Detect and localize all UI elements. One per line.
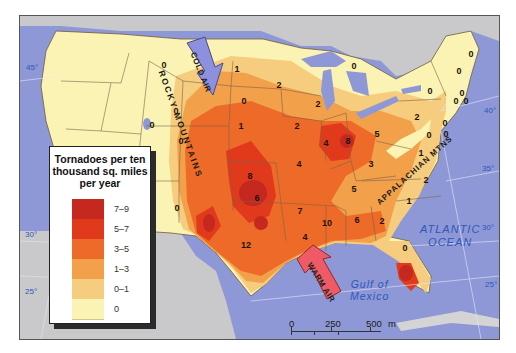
legend-title: Tornadoes per ten thousand sq. miles per… (50, 153, 150, 189)
scale-tick-250km (314, 331, 315, 335)
atlantic-line-1: ATLANTIC (420, 223, 480, 236)
legend-label: 0–1 (114, 284, 129, 294)
scale-tick-0 (291, 327, 292, 335)
tornado-value-label: 0 (161, 61, 166, 70)
lat-label-30-west: 30° (25, 231, 37, 239)
scale-km-0: 0 (289, 339, 294, 340)
scale-km-unit: km (355, 339, 368, 340)
scale-miles-unit: m (388, 318, 396, 329)
cuba-land (396, 311, 499, 331)
tornado-value-label: 0 (443, 130, 448, 139)
tornado-value-label: 1 (406, 197, 411, 206)
scale-km-500: 500 (332, 339, 348, 340)
tornado-value-label: 5 (374, 130, 379, 139)
tornado-value-label: 4 (323, 139, 328, 148)
lat-label-30-east: 30° (482, 224, 494, 232)
band-7-9-texas (203, 214, 215, 232)
legend-label: 5–7 (114, 224, 129, 234)
band-7-9-oklahoma (254, 216, 268, 230)
tornado-value-label: 8 (345, 137, 350, 146)
atlantic-ocean-label: ATLANTIC OCEAN (420, 223, 480, 248)
tornado-value-label: 6 (354, 216, 359, 225)
scale-tick-500m (370, 327, 371, 331)
tornado-value-label: 0 (468, 50, 473, 59)
legend-item-7-9: 7–9 (72, 199, 147, 219)
tornado-value-label: 0 (456, 67, 461, 76)
tornado-value-label: 2 (379, 217, 384, 226)
lat-label-25-east: 25° (485, 281, 497, 289)
legend-item-1-3: 1–3 (72, 259, 147, 279)
tornado-value-label: 0 (178, 137, 183, 146)
lat-label-40: 40° (484, 107, 496, 115)
legend-title-line-1: Tornadoes per ten (50, 153, 150, 165)
tornado-value-label: 0 (442, 119, 447, 128)
tornado-value-label: 0 (426, 131, 431, 140)
legend-swatch (72, 199, 104, 220)
legend-label: 0 (114, 304, 119, 314)
tornado-value-label: 2 (423, 176, 428, 185)
tornado-value-label: 0 (149, 121, 154, 130)
tornado-value-label: 1 (418, 149, 423, 158)
tornado-value-label: 1 (234, 65, 239, 74)
scale-miles-250: 250 (325, 318, 341, 329)
lat-label-35: 35° (482, 165, 494, 173)
legend-swatch (72, 219, 104, 240)
lat-label-25-west: 25° (25, 288, 37, 296)
atlantic-line-2: OCEAN (420, 236, 480, 249)
legend-item-3-5: 3–5 (72, 239, 147, 259)
tornado-value-label: 0 (463, 97, 468, 106)
scale-tick-250m (331, 327, 332, 331)
legend-swatch (72, 239, 104, 260)
tornado-value-label: 0 (241, 97, 246, 106)
tornado-value-label: 0 (402, 244, 407, 253)
tornado-value-label: 3 (368, 160, 373, 169)
scale-line (291, 331, 381, 332)
tornado-value-label: 5 (351, 185, 356, 194)
band-7-9-florida (399, 265, 413, 281)
tornado-value-label: 0 (174, 204, 179, 213)
tornado-value-label: 2 (276, 81, 281, 90)
tornado-value-label: 7 (297, 207, 302, 216)
gulf-of-mexico-label: Gulf of Mexico (350, 278, 389, 302)
lat-label-45: 45° (26, 64, 38, 72)
scale-miles-500: 500 (366, 318, 382, 329)
legend-swatch (72, 279, 104, 300)
tornado-value-label: 2 (294, 122, 299, 131)
tornado-value-label: 8 (247, 172, 252, 181)
legend-item-0: 0 (72, 299, 147, 319)
legend-label: 3–5 (114, 244, 129, 254)
legend-item-0-1: 0–1 (72, 279, 147, 299)
legend-swatch (72, 299, 104, 320)
scale-bar: 0 250 500 m 0 250 500 km (288, 318, 408, 340)
legend-items: 7–9 5–7 3–5 1–3 0–1 0 (72, 199, 147, 319)
legend-title-line-2: thousand sq. miles (50, 165, 150, 177)
legend-label: 1–3 (114, 264, 129, 274)
tornado-value-label: 0 (351, 62, 356, 71)
tornado-value-label: 2 (414, 113, 419, 122)
tornado-value-label: 0 (427, 87, 432, 96)
tornado-value-label: 6 (254, 194, 259, 203)
legend-title-line-3: per year (50, 177, 150, 189)
legend-item-5-7: 5–7 (72, 219, 147, 239)
scale-tick-500km (338, 331, 339, 335)
tornado-value-label: 4 (296, 160, 301, 169)
tornado-value-label: 10 (322, 219, 332, 228)
legend: Tornadoes per ten thousand sq. miles per… (49, 146, 151, 324)
gulf-line-1: Gulf of (350, 278, 389, 290)
tornado-value-label: 1 (238, 122, 243, 131)
legend-label: 7–9 (114, 204, 129, 214)
scale-km-250: 250 (306, 339, 322, 340)
legend-swatch (72, 259, 104, 280)
tornado-value-label: 2 (315, 100, 320, 109)
tornado-value-label: 4 (302, 233, 307, 242)
tornado-value-label: 0 (453, 97, 458, 106)
tornado-value-label: 0 (173, 107, 178, 116)
gulf-line-2: Mexico (350, 290, 389, 302)
tornado-value-label: 12 (241, 241, 251, 250)
